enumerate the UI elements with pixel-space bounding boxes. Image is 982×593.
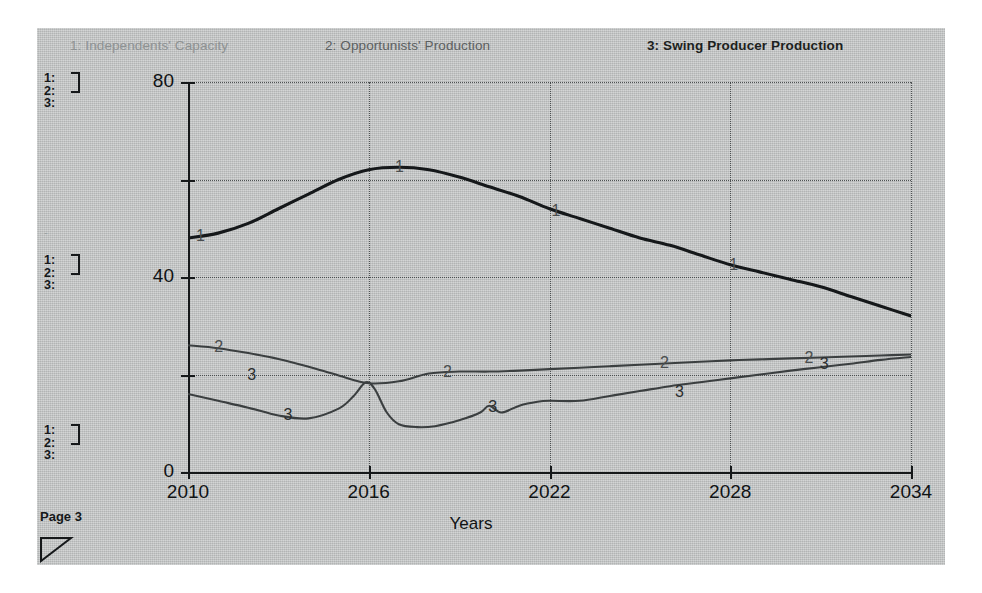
y-axis-label: 0 <box>114 460 174 482</box>
gridline-vertical <box>911 82 912 472</box>
bracket-icon <box>71 424 80 445</box>
y-axis-tick <box>181 375 195 377</box>
x-axis-label: 2034 <box>866 481 956 503</box>
y-axis-tick <box>181 180 195 182</box>
series-marker-label-3: 3 <box>675 383 684 401</box>
x-axis-label: 2010 <box>143 481 233 503</box>
bracket-icon <box>71 254 80 275</box>
x-axis-tick <box>188 466 190 479</box>
screenshot-root: 1: Independents' Capacity 2: Opportunist… <box>0 0 982 593</box>
y-axis-tick <box>181 277 195 279</box>
legend-item-3: 3: Swing Producer Production <box>647 38 843 53</box>
series-line-2 <box>188 345 911 383</box>
x-axis-label: 2022 <box>505 481 595 503</box>
series-marker-label-2: 2 <box>805 349 814 367</box>
x-axis-title: Years <box>0 514 982 534</box>
series-line-1 <box>188 167 911 316</box>
y-axis-label: 80 <box>114 70 174 92</box>
key-row-3: 3: <box>44 449 86 462</box>
series-marker-label-1: 1 <box>552 202 561 220</box>
legend-item-2: 2: Opportunists' Production <box>325 38 490 53</box>
series-marker-label-2: 2 <box>443 363 452 381</box>
x-axis-title-text: Years <box>450 514 493 533</box>
y-axis-label: 40 <box>114 265 174 287</box>
series-marker-label-3: 3 <box>283 406 292 424</box>
key-row-3: 3: <box>44 97 86 110</box>
key-row-3: 3: <box>44 279 86 292</box>
x-axis-label: 2028 <box>685 481 775 503</box>
legend-item-1: 1: Independents' Capacity <box>70 38 228 53</box>
series-key-block-bottom: 1: 2: 3: <box>44 424 86 462</box>
series-marker-label-3: 3 <box>488 398 497 416</box>
x-axis-tick <box>730 466 732 479</box>
legend: 1: Independents' Capacity 2: Opportunist… <box>37 38 945 60</box>
x-axis-tick <box>369 466 371 479</box>
key-faint-mark: - <box>44 226 62 233</box>
series-marker-label-3: 3 <box>247 366 256 384</box>
series-marker-label-2: 2 <box>660 354 669 372</box>
series-key-block-top: 1: 2: 3: <box>44 72 86 110</box>
x-axis-tick <box>550 466 552 479</box>
series-line-3 <box>188 357 911 427</box>
x-axis-label: 2016 <box>324 481 414 503</box>
series-marker-label-3: 3 <box>820 355 829 373</box>
series-key-block-middle: 1: 2: 3: <box>44 254 86 292</box>
series-marker-label-2: 2 <box>214 338 223 356</box>
series-marker-label-1: 1 <box>395 158 404 176</box>
x-axis-tick <box>911 466 913 479</box>
bracket-icon <box>71 72 80 93</box>
series-curves <box>188 82 911 472</box>
series-marker-label-1: 1 <box>729 256 738 274</box>
series-marker-label-1: 1 <box>196 227 205 245</box>
y-axis-tick <box>181 82 195 84</box>
